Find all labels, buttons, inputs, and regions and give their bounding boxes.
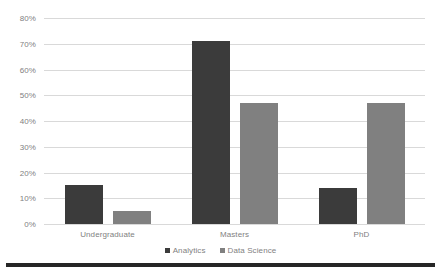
bar-groups bbox=[44, 18, 425, 224]
bar-group bbox=[44, 18, 171, 224]
x-axis-tick-label: Undergraduate bbox=[44, 228, 171, 242]
bar-group bbox=[298, 18, 425, 224]
bar[interactable] bbox=[240, 103, 278, 224]
bar[interactable] bbox=[113, 211, 151, 224]
legend-swatch-icon bbox=[165, 248, 170, 253]
chart-legend: AnalyticsData Science bbox=[0, 246, 441, 255]
y-axis-tick-label: 20% bbox=[20, 168, 36, 177]
legend-swatch-icon bbox=[220, 248, 225, 253]
legend-label: Analytics bbox=[173, 246, 206, 255]
bar-slot bbox=[192, 18, 278, 224]
bar[interactable] bbox=[192, 41, 230, 224]
y-axis-tick-label: 40% bbox=[20, 117, 36, 126]
plot-area bbox=[44, 18, 425, 224]
bar-group bbox=[171, 18, 298, 224]
y-axis-tick-label: 60% bbox=[20, 65, 36, 74]
x-axis: UndergraduateMastersPhD bbox=[44, 228, 425, 242]
bar[interactable] bbox=[367, 103, 405, 224]
y-axis-tick-label: 30% bbox=[20, 142, 36, 151]
legend-label: Data Science bbox=[228, 246, 277, 255]
bar-slot bbox=[65, 18, 151, 224]
bar[interactable] bbox=[319, 188, 357, 224]
y-axis-tick-label: 10% bbox=[20, 194, 36, 203]
y-axis-tick-label: 70% bbox=[20, 39, 36, 48]
legend-item[interactable]: Analytics bbox=[165, 246, 206, 255]
y-axis-tick-label: 50% bbox=[20, 91, 36, 100]
gridline bbox=[44, 224, 425, 225]
y-axis-tick-label: 80% bbox=[20, 14, 36, 23]
y-axis-tick-label: 0% bbox=[24, 220, 36, 229]
x-axis-tick-label: Masters bbox=[171, 228, 298, 242]
bar[interactable] bbox=[65, 185, 103, 224]
legend-item[interactable]: Data Science bbox=[220, 246, 277, 255]
y-axis: 0%10%20%30%40%50%60%70%80% bbox=[0, 18, 40, 224]
bar-chart: 0%10%20%30%40%50%60%70%80% Undergraduate… bbox=[0, 0, 441, 276]
x-axis-tick-label: PhD bbox=[298, 228, 425, 242]
bottom-divider bbox=[6, 263, 435, 267]
bar-slot bbox=[319, 18, 405, 224]
